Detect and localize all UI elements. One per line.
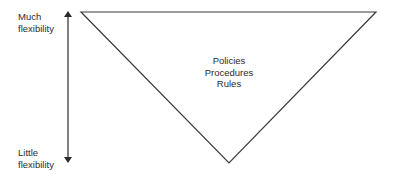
procedures-text: Procedures	[169, 67, 289, 79]
much-flexibility-line2: flexibility	[18, 23, 54, 35]
much-flexibility-line1: Much	[18, 11, 54, 23]
triangle-contents: Policies Procedures Rules	[169, 55, 289, 90]
little-flexibility-line1: Little	[18, 147, 54, 159]
much-flexibility-label: Much flexibility	[18, 11, 54, 35]
little-flexibility-label: Little flexibility	[18, 147, 54, 171]
rules-text: Rules	[169, 78, 289, 90]
policies-text: Policies	[169, 55, 289, 67]
little-flexibility-line2: flexibility	[18, 159, 54, 171]
